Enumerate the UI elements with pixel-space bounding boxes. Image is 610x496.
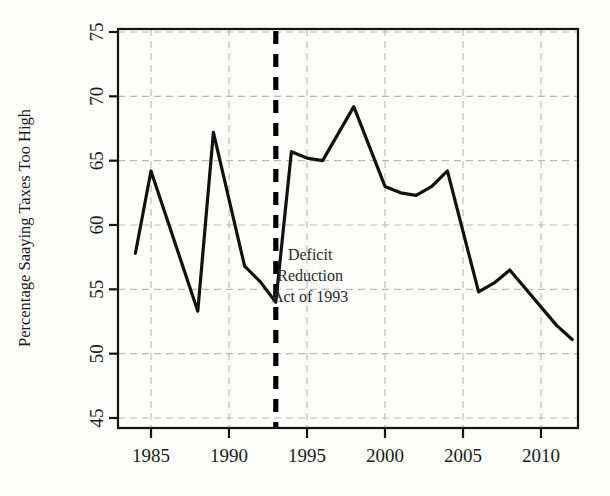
x-tick-label: 1995: [288, 445, 326, 466]
annotation-line: Act of 1993: [272, 288, 348, 305]
x-tick-label: 2000: [366, 445, 404, 466]
chart-figure: 45505560657075 198519901995200020052010 …: [0, 0, 610, 496]
y-tick-label: 65: [86, 151, 107, 170]
x-tick-label: 2010: [522, 445, 560, 466]
x-tick-label: 1985: [132, 445, 170, 466]
y-axis-title: Percentage Saaying Taxes Too High: [15, 108, 34, 347]
y-tick-label: 45: [86, 409, 107, 428]
y-tick-label: 75: [86, 23, 107, 42]
line-chart: 45505560657075 198519901995200020052010 …: [0, 0, 610, 496]
annotation-line: Reduction: [277, 267, 343, 284]
y-tick-label: 50: [86, 344, 107, 363]
y-tick-label: 55: [86, 280, 107, 299]
x-tick-label: 1990: [210, 445, 248, 466]
x-tick-label: 2005: [444, 445, 482, 466]
y-tick-label: 60: [86, 216, 107, 235]
annotation-line: Deficit: [288, 246, 333, 263]
y-tick-label: 70: [86, 87, 107, 106]
